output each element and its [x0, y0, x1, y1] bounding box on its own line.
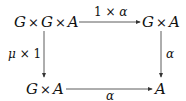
- symbol-alpha: α: [119, 5, 127, 19]
- one: 1: [94, 5, 102, 19]
- times-op: ×: [38, 82, 53, 97]
- node-top-left: G×G×A: [14, 15, 79, 30]
- one: 1: [34, 47, 42, 61]
- times-op: ×: [26, 15, 41, 30]
- label-right-arrow: α: [166, 48, 174, 60]
- node-top-right: G×A: [142, 15, 180, 30]
- symbol-g: G: [14, 13, 26, 31]
- symbol-g: G: [26, 80, 38, 98]
- times-op: ×: [154, 15, 169, 30]
- symbol-mu: μ: [8, 47, 16, 61]
- symbol-a: A: [169, 13, 180, 31]
- symbol-a: A: [68, 13, 79, 31]
- label-left-arrow: μ × 1: [8, 48, 41, 60]
- symbol-alpha: α: [106, 89, 114, 101]
- times-op: ×: [20, 47, 30, 61]
- label-top-arrow: 1 × α: [94, 6, 127, 18]
- times-op: ×: [53, 15, 68, 30]
- symbol-g: G: [142, 13, 154, 31]
- symbol-a: A: [155, 80, 166, 98]
- symbol-alpha: α: [166, 47, 174, 61]
- node-bottom-right: A: [155, 82, 166, 97]
- label-bottom-arrow: α: [106, 90, 114, 101]
- symbol-g: G: [41, 13, 53, 31]
- symbol-a: A: [53, 80, 64, 98]
- times-op: ×: [105, 5, 115, 19]
- node-bottom-left: G×A: [26, 82, 64, 97]
